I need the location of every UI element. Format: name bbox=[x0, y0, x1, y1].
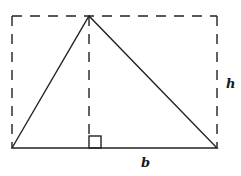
triangle-area-diagram: h b bbox=[0, 0, 241, 176]
height-label: h bbox=[226, 76, 235, 91]
triangle bbox=[12, 16, 217, 148]
right-angle-marker bbox=[89, 136, 101, 148]
base-label: b bbox=[141, 155, 150, 170]
